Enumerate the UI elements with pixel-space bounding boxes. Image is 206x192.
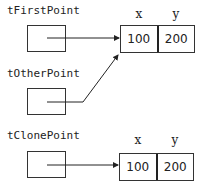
- variable-box-tclonepoint: [27, 151, 66, 178]
- object2-y-value: 200: [156, 154, 194, 180]
- object1-x-value: 100: [121, 26, 157, 52]
- object1-y-value: 200: [157, 26, 195, 52]
- variable-label-tclonepoint: tClonePoint: [7, 129, 80, 142]
- variable-box-totherpoint: [27, 88, 66, 115]
- reference-diagram: tFirstPoint tOtherPoint tClonePoint x y …: [0, 0, 206, 192]
- object1-header-y: y: [158, 7, 194, 21]
- variable-label-totherpoint: tOtherPoint: [7, 67, 80, 80]
- point-object-2: 100 200: [119, 153, 194, 181]
- object2-x-value: 100: [120, 154, 156, 180]
- object2-header-y: y: [157, 133, 193, 147]
- object2-header-x: x: [120, 133, 156, 147]
- variable-label-tfirstpoint: tFirstPoint: [7, 4, 80, 17]
- object1-header-x: x: [121, 7, 157, 21]
- variable-box-tfirstpoint: [27, 25, 66, 52]
- point-object-1: 100 200: [120, 25, 195, 53]
